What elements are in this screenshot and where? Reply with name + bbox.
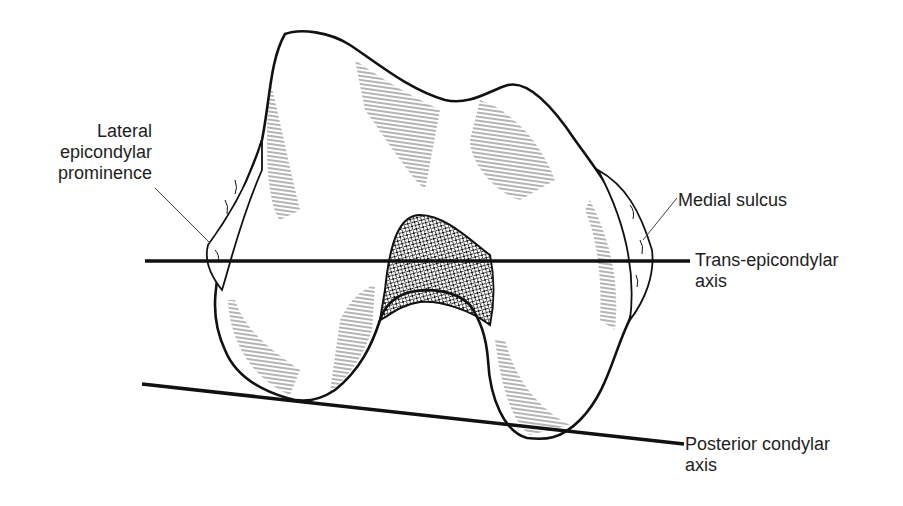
leader-line-lateral (155, 188, 210, 243)
label-line: axis (695, 271, 838, 292)
label-line: Medial sulcus (678, 190, 787, 211)
label-line: epicondylar (40, 142, 152, 163)
label-posterior-condylar-axis: Posterior condylar axis (685, 434, 830, 476)
label-line: axis (685, 455, 830, 476)
leader-line-medial (643, 198, 677, 240)
label-line: Posterior condylar (685, 434, 830, 455)
femur-diagram: Lateral epicondylar prominence Medial su… (0, 0, 903, 506)
label-lateral-epicondylar-prominence: Lateral epicondylar prominence (40, 121, 152, 184)
label-trans-epicondylar-axis: Trans-epicondylar axis (695, 250, 838, 292)
label-line: Lateral (40, 121, 152, 142)
label-medial-sulcus: Medial sulcus (678, 190, 787, 211)
label-line: Trans-epicondylar (695, 250, 838, 271)
posterior-condylar-axis-line (142, 384, 684, 444)
label-line: prominence (40, 163, 152, 184)
